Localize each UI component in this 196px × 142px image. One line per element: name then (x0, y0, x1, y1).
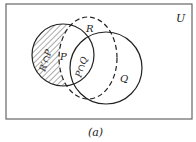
venn-diagram: U R P Q R′∩P P∩Q (a) (0, 0, 196, 142)
shaded-region-r-complement-p (0, 0, 196, 142)
universe-label: U (176, 12, 186, 25)
set-q-label: Q (120, 73, 128, 84)
region-p-label: P (59, 51, 67, 62)
caption: (a) (88, 126, 103, 139)
set-r-label: R (85, 23, 94, 34)
